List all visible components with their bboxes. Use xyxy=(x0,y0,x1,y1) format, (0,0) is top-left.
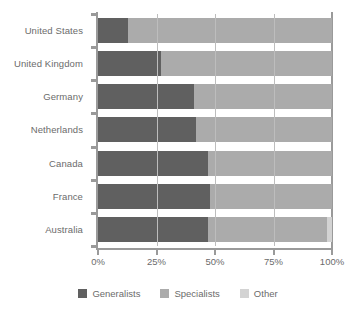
x-axis-tick xyxy=(331,250,333,255)
bar-segment-generalists xyxy=(98,18,128,43)
y-axis-category-label: France xyxy=(0,180,90,213)
x-axis-ticks xyxy=(98,250,332,255)
bar-segment-specialists xyxy=(128,18,332,43)
x-axis-tick-label: 75% xyxy=(264,256,283,267)
bar-segment-generalists xyxy=(98,51,161,76)
y-axis-tick xyxy=(91,13,97,16)
stacked-bar-chart: United StatesUnited KingdomGermanyNether… xyxy=(0,0,356,316)
x-axis-tick xyxy=(273,250,275,255)
bar-segment-specialists xyxy=(210,184,332,209)
x-axis-tick xyxy=(97,250,99,255)
x-axis-tick xyxy=(156,250,158,255)
legend-item[interactable]: Generalists xyxy=(78,288,140,299)
legend-label: Specialists xyxy=(174,288,219,299)
gridline xyxy=(157,14,158,246)
y-axis-tick xyxy=(91,245,97,248)
legend-label: Other xyxy=(254,288,278,299)
legend-swatch-icon xyxy=(78,289,87,298)
bar-segment-specialists xyxy=(208,217,327,242)
y-axis-category-labels: United StatesUnited KingdomGermanyNether… xyxy=(0,14,90,246)
bar-segment-generalists xyxy=(98,217,208,242)
bar-segment-generalists xyxy=(98,151,208,176)
x-axis-tick-label: 0% xyxy=(91,256,105,267)
legend-item[interactable]: Specialists xyxy=(160,288,219,299)
bar-segment-generalists xyxy=(98,117,196,142)
gridline xyxy=(215,14,216,246)
legend-label: Generalists xyxy=(92,288,140,299)
bar-segment-specialists xyxy=(196,117,332,142)
y-axis-tick xyxy=(91,46,97,49)
y-axis-category-label: United States xyxy=(0,14,90,47)
legend-item[interactable]: Other xyxy=(240,288,278,299)
y-axis-tick xyxy=(91,212,97,215)
plot-area xyxy=(98,14,332,246)
bar-segment-specialists xyxy=(161,51,332,76)
x-axis-tick-label: 50% xyxy=(205,256,224,267)
y-axis-category-label: Netherlands xyxy=(0,113,90,146)
x-axis-tick-label: 25% xyxy=(147,256,166,267)
bar-segment-specialists xyxy=(208,151,332,176)
legend-swatch-icon xyxy=(160,289,169,298)
y-axis-category-label: Germany xyxy=(0,80,90,113)
gridline xyxy=(274,14,275,246)
y-axis-tick xyxy=(91,112,97,115)
bar-segment-other xyxy=(327,217,332,242)
x-axis-tick xyxy=(214,250,216,255)
x-axis-tick-label: 100% xyxy=(320,256,344,267)
bar-segment-generalists xyxy=(98,84,194,109)
y-axis-tick xyxy=(91,79,97,82)
y-axis-tick xyxy=(91,146,97,149)
y-axis-category-label: Canada xyxy=(0,147,90,180)
y-axis-tick xyxy=(91,179,97,182)
y-axis-category-label: United Kingdom xyxy=(0,47,90,80)
y-axis-category-label: Australia xyxy=(0,213,90,246)
x-axis-tick-labels: 0%25%50%75%100% xyxy=(98,256,332,270)
legend-swatch-icon xyxy=(240,289,249,298)
bar-segment-generalists xyxy=(98,184,210,209)
chart-legend: GeneralistsSpecialistsOther xyxy=(0,288,356,299)
